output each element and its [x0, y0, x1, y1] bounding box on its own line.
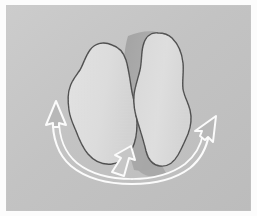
diagram-canvas	[0, 0, 257, 216]
figure-root: Two-lobed structure with divergent motio…	[0, 0, 257, 216]
